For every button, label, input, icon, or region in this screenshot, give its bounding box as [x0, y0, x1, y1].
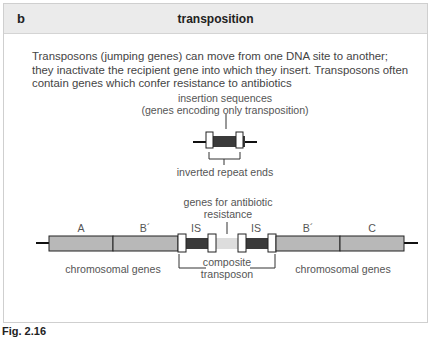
chromosomal-genes-left-label: chromosomal genes	[53, 263, 173, 275]
segment-label-b-right: B´	[298, 222, 318, 234]
insertion-sequences-label: insertion sequences (genes encoding only…	[0, 92, 433, 116]
insertion-sequence-figure	[193, 114, 257, 165]
antibiotic-resistance-label: genes for antibiotic resistance	[0, 196, 433, 220]
gene-a-segment	[49, 236, 113, 251]
gene-b-right-segment	[276, 236, 340, 251]
figure-caption: Fig. 2.16	[2, 325, 46, 337]
gene-b-left-segment	[113, 236, 178, 251]
segment-label-a: A	[71, 222, 91, 234]
segment-label-is-right: IS	[246, 222, 266, 234]
chromosomal-genes-right-label: chromosomal genes	[283, 263, 403, 275]
gene-c-segment	[340, 236, 404, 251]
segment-label-b-left: B´	[135, 222, 155, 234]
composite-transposon-label: composite transposon	[187, 256, 267, 280]
inverted-repeat-ends-label: inverted repeat ends	[0, 166, 433, 178]
segment-label-is-left: IS	[186, 222, 206, 234]
segment-label-c: C	[362, 222, 382, 234]
